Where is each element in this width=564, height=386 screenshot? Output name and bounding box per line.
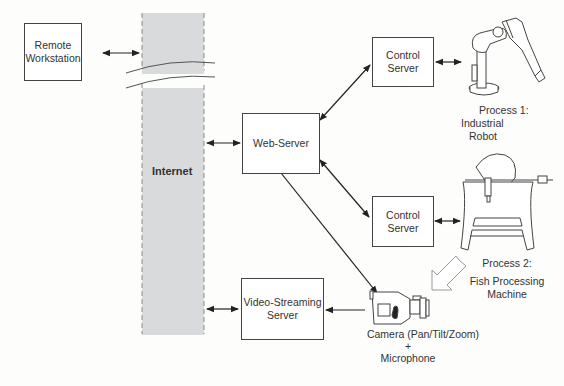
control-server-1-line1: Control: [386, 49, 420, 62]
web-server-box: Web-Server: [242, 113, 320, 174]
video-server-line1: Video-Streaming: [243, 296, 321, 309]
control-server-1-line2: Server: [388, 62, 419, 75]
control-server-2-line2: Server: [388, 222, 419, 235]
web-server-label: Web-Server: [253, 137, 309, 150]
remote-workstation-label-line1: Remote: [35, 39, 72, 52]
remote-workstation-label-line2: Workstation: [25, 52, 80, 65]
internet-label: Internet: [152, 165, 192, 177]
edge-webserver-control2: [320, 160, 369, 217]
control-server-2-line1: Control: [386, 209, 420, 222]
control-server-2-box: Control Server: [372, 196, 434, 247]
edge-webserver-control1: [320, 65, 370, 120]
video-streaming-server-box: Video-Streaming Server: [241, 278, 324, 340]
process2-label-line2: Fish Processing: [459, 275, 555, 288]
control-server-1-box: Control Server: [372, 37, 434, 87]
industrial-robot-icon: [469, 18, 545, 95]
camera-icon: [370, 291, 429, 324]
video-server-line2: Server: [267, 309, 298, 322]
process1-label-line3: Robot: [469, 130, 497, 143]
diagram-canvas: Remote Workstation Internet Web-Server C…: [0, 0, 564, 386]
remote-workstation-box: Remote Workstation: [24, 23, 82, 81]
process1-label-line1: Process 1:: [479, 104, 529, 117]
process1-label-line2: Industrial: [461, 117, 504, 130]
fish-processing-machine-icon: [461, 154, 553, 250]
edge-webserver-camera: [281, 173, 377, 293]
camera-label-line3: Microphone: [358, 352, 458, 365]
process2-label-line3: Machine: [472, 288, 542, 301]
process2-label-line1: Process 2:: [472, 257, 542, 270]
